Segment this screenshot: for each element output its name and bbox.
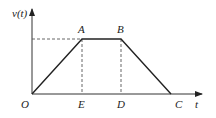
y-axis-label: v(t) xyxy=(12,7,28,20)
x-axis-label: t xyxy=(195,98,199,110)
origin-label: O xyxy=(21,98,29,110)
velocity-profile xyxy=(32,39,171,94)
point-label-C: C xyxy=(175,98,183,110)
velocity-time-diagram: v(t) A B O E D C t xyxy=(0,0,216,118)
point-label-D: D xyxy=(116,98,125,110)
point-label-B: B xyxy=(117,23,124,35)
point-label-E: E xyxy=(77,98,85,110)
point-label-A: A xyxy=(77,23,85,35)
